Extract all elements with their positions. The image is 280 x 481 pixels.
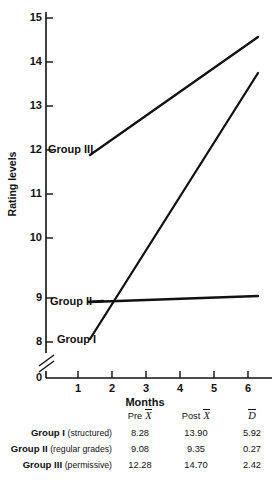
cell-pre-mean: 8.28 <box>112 425 168 441</box>
cell-post-mean: 14.70 <box>168 457 224 473</box>
row-group-name: Group I <box>31 427 65 438</box>
row-group-qualifier: (regular grades) <box>50 444 112 454</box>
y-axis-title: Rating levels <box>6 144 18 224</box>
x-tick-label-2: 2 <box>102 383 122 394</box>
row-group-name: Group III <box>23 459 62 470</box>
cell-pre-mean: 12.28 <box>112 457 168 473</box>
table-row: Group I (structured) 8.28 13.90 5.92 <box>0 425 280 441</box>
x-tick-label-4: 4 <box>170 383 190 394</box>
x-tick-label-6: 6 <box>238 383 258 394</box>
header-mean-difference: D <box>224 409 280 425</box>
series-annotation-group-iii: Group III <box>48 144 93 155</box>
row-group-name: Group II <box>11 443 48 454</box>
header-post-prefix: Post <box>182 411 201 421</box>
row-group-qualifier: (permissive) <box>65 460 112 470</box>
cell-post-mean: 9.35 <box>168 441 224 457</box>
header-pre-mean: Pre X <box>112 409 168 425</box>
x-tick-label-1: 1 <box>68 383 88 394</box>
header-row-label <box>0 409 112 425</box>
header-pre-prefix: Pre <box>128 411 142 421</box>
figure-container: 15 14 13 12 11 10 9 8 0 1 2 3 4 5 6 Rati… <box>0 0 280 481</box>
cell-pre-mean: 9.08 <box>112 441 168 457</box>
summary-data-table: Pre X Post X D Group I (structured) 8.28 <box>0 409 280 473</box>
header-post-symbol: X <box>203 409 210 421</box>
row-label-group-iii: Group III (permissive) <box>0 457 112 473</box>
table-row: Group II (regular grades) 9.08 9.35 0.27 <box>0 441 280 457</box>
x-tick-label-5: 5 <box>204 383 224 394</box>
header-pre-symbol: X <box>145 409 152 421</box>
header-post-mean: Post X <box>168 409 224 425</box>
series-annotation-group-ii: Group II <box>50 296 92 307</box>
cell-mean-diff: 0.27 <box>224 441 280 457</box>
cell-mean-diff: 2.42 <box>224 457 280 473</box>
table-row: Group III (permissive) 12.28 14.70 2.42 <box>0 457 280 473</box>
row-label-group-ii: Group II (regular grades) <box>0 441 112 457</box>
cell-mean-diff: 5.92 <box>224 425 280 441</box>
x-axis-title: Months <box>105 396 185 408</box>
header-diff-symbol: D <box>248 409 257 421</box>
x-tick-label-3: 3 <box>136 383 156 394</box>
row-label-group-i: Group I (structured) <box>0 425 112 441</box>
series-annotation-group-i: Group I <box>57 334 96 345</box>
x-tick-label-group: 1 2 3 4 5 6 <box>0 0 280 400</box>
cell-post-mean: 13.90 <box>168 425 224 441</box>
table-header-row: Pre X Post X D <box>0 409 280 425</box>
row-group-qualifier: (structured) <box>68 428 112 438</box>
